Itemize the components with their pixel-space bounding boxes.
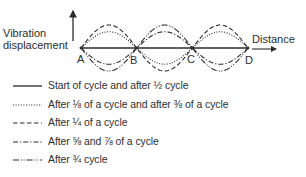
node-label-a: A: [77, 53, 85, 65]
node-label-c: C: [187, 53, 195, 65]
legend-label: Start of cycle and after ½ cycle: [48, 79, 188, 93]
legend-label: After ¾ cycle: [48, 153, 107, 167]
legend-swatch-dash-dot-dot: [12, 155, 44, 165]
legend-label: After ⅛ of a cycle and after ⅜ of a cycl…: [48, 98, 228, 112]
node-label-d: D: [245, 54, 253, 66]
y-axis-label-line1: Vibration: [3, 27, 46, 39]
legend-item-three-quarters: After ¾ cycle: [0, 151, 306, 169]
legend-label: After ⅝ and ⅞ of a cycle: [48, 135, 159, 149]
node-point-d: [247, 47, 250, 50]
node-label-b: B: [130, 54, 137, 66]
legend-swatch-dash-dot: [12, 137, 44, 147]
legend-label: After ¼ of a cycle: [48, 116, 127, 130]
wave-curves: [80, 25, 250, 71]
legend-item-start-and-half: Start of cycle and after ½ cycle: [0, 77, 306, 95]
legend-swatch-solid: [12, 81, 44, 91]
y-axis-label-line2: displacement: [3, 39, 68, 51]
node-point-a: [80, 47, 83, 50]
legend-swatch-dotted: [12, 100, 44, 110]
legend-item-five-and-seven-eighths: After ⅝ and ⅞ of a cycle: [0, 133, 306, 151]
legend-item-quarter: After ¼ of a cycle: [0, 114, 306, 132]
node-point-b: [135, 47, 138, 50]
legend-swatch-dashed: [12, 118, 44, 128]
legend-item-eighth-and-three-eighths: After ⅛ of a cycle and after ⅜ of a cycl…: [0, 96, 306, 114]
node-point-c: [191, 47, 194, 50]
x-axis-label: Distance: [252, 33, 295, 45]
